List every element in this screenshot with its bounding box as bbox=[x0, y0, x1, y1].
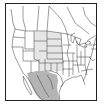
map-frame bbox=[5, 3, 97, 101]
light-range-area bbox=[34, 31, 64, 71]
dark-range-area bbox=[27, 71, 60, 101]
range-map bbox=[6, 4, 97, 101]
